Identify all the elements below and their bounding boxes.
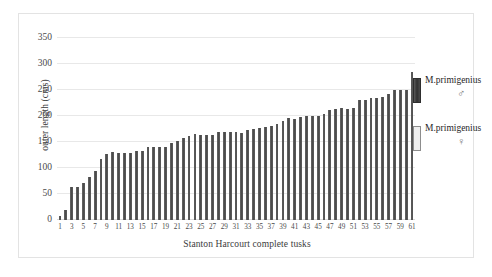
bar-2 (64, 210, 67, 220)
bar-3 (70, 187, 73, 220)
x-tick-label-45: 45 (315, 222, 322, 232)
bar-46 (323, 114, 326, 220)
bar-35 (258, 128, 261, 220)
bar-32 (240, 133, 243, 220)
bar-47 (328, 110, 331, 220)
bar-42 (299, 117, 302, 220)
bar-41 (293, 119, 296, 220)
x-tick-label-39: 39 (279, 222, 286, 232)
bar-58 (393, 90, 396, 220)
x-tick-label-23: 23 (185, 222, 192, 232)
bar-45 (317, 116, 320, 220)
figure-canvas: outer length (cms) 050100150200250300350… (0, 0, 492, 277)
y-tick-label-100: 100 (38, 162, 52, 172)
bar-29 (223, 132, 226, 220)
bar-43 (305, 116, 308, 220)
bar-39 (282, 121, 285, 220)
bar-25 (199, 135, 202, 220)
bar-20 (170, 143, 173, 220)
bar-23 (188, 136, 191, 220)
y-tick-label-250: 250 (38, 84, 52, 94)
bar-11 (117, 153, 120, 220)
x-tick-label-5: 5 (82, 222, 86, 232)
bar-59 (399, 90, 402, 220)
bar-24 (194, 134, 197, 220)
bar-33 (246, 130, 249, 220)
x-tick-label-53: 53 (362, 222, 369, 232)
legend-label-female: M.primigenius (425, 123, 481, 133)
legend-swatch-female-icon (413, 126, 421, 151)
x-tick-label-7: 7 (93, 222, 97, 232)
bar-51 (352, 108, 355, 220)
bar-49 (340, 108, 343, 220)
x-tick-label-25: 25 (197, 222, 204, 232)
x-tick-label-49: 49 (338, 222, 345, 232)
bar-series (57, 38, 415, 220)
bar-15 (141, 151, 144, 220)
bar-22 (182, 138, 185, 220)
y-tick-label-350: 350 (38, 32, 52, 42)
x-axis-tick-labels: 1357911131517192123252729313335373941434… (57, 222, 415, 236)
bar-36 (264, 127, 267, 220)
bar-21 (176, 141, 179, 220)
x-tick-label-21: 21 (174, 222, 181, 232)
bar-7 (94, 171, 97, 220)
bar-57 (387, 94, 390, 220)
y-tick-label-150: 150 (38, 136, 52, 146)
bar-56 (381, 97, 384, 220)
x-tick-label-3: 3 (70, 222, 74, 232)
bar-52 (358, 100, 361, 220)
x-tick-label-17: 17 (150, 222, 157, 232)
bar-34 (252, 129, 255, 220)
bar-60 (405, 90, 408, 220)
legend-item-female: M.primigenius ♀ (411, 124, 492, 158)
x-tick-label-27: 27 (209, 222, 216, 232)
bar-55 (375, 98, 378, 220)
x-tick-label-35: 35 (256, 222, 263, 232)
bar-5 (82, 183, 85, 220)
x-tick-label-51: 51 (350, 222, 357, 232)
x-tick-label-33: 33 (244, 222, 251, 232)
bar-44 (311, 116, 314, 220)
bar-26 (205, 135, 208, 220)
bar-10 (111, 152, 114, 220)
bar-14 (135, 151, 138, 220)
bar-16 (147, 147, 150, 220)
x-tick-label-31: 31 (232, 222, 239, 232)
bar-13 (129, 153, 132, 220)
x-tick-label-15: 15 (139, 222, 146, 232)
bar-9 (105, 154, 108, 220)
bar-30 (229, 132, 232, 220)
x-tick-label-55: 55 (373, 222, 380, 232)
bar-31 (235, 132, 238, 220)
legend-label-male: M.primigenius (425, 75, 481, 85)
male-sex-symbol-icon: ♂ (425, 87, 492, 99)
bar-28 (217, 132, 220, 220)
x-tick-label-29: 29 (221, 222, 228, 232)
legend-swatch-male-icon (413, 78, 421, 103)
x-tick-label-1: 1 (58, 222, 62, 232)
x-tick-label-11: 11 (115, 222, 122, 232)
y-tick-label-50: 50 (43, 188, 53, 198)
bar-53 (364, 100, 367, 220)
x-axis-title: Stanton Harcourt complete tusks (19, 239, 475, 249)
x-tick-label-61: 61 (408, 222, 415, 232)
bar-37 (270, 126, 273, 220)
x-tick-label-37: 37 (268, 222, 275, 232)
bar-18 (158, 147, 161, 220)
y-tick-label-200: 200 (38, 110, 52, 120)
x-tick-label-19: 19 (162, 222, 169, 232)
x-tick-label-47: 47 (326, 222, 333, 232)
y-tick-label-0: 0 (47, 214, 52, 224)
bar-6 (88, 177, 91, 220)
bar-1 (59, 216, 62, 220)
y-tick-label-300: 300 (38, 58, 52, 68)
bar-17 (152, 147, 155, 220)
bar-8 (100, 159, 103, 220)
female-sex-symbol-icon: ♀ (425, 135, 492, 147)
bar-19 (164, 147, 167, 220)
x-tick-label-41: 41 (291, 222, 298, 232)
bar-54 (370, 98, 373, 220)
bar-48 (334, 109, 337, 220)
chart-frame: outer length (cms) 050100150200250300350… (18, 13, 474, 258)
